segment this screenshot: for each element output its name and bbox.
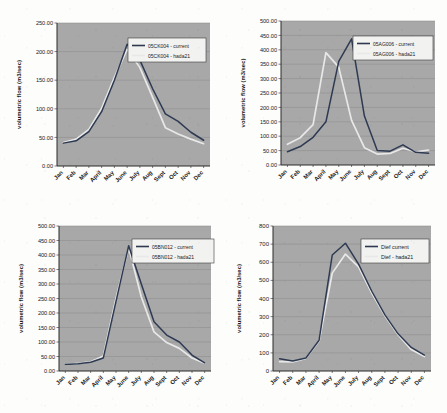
x-tick-label: June — [332, 374, 346, 388]
y-axis-title: volumetric flow (m3/sec) — [240, 59, 246, 128]
y-tick-label: 400.00 — [260, 47, 277, 53]
y-tick-label: 400.00 — [38, 252, 55, 258]
x-tick-label: July — [129, 374, 142, 387]
x-tick-label: Dec — [417, 168, 429, 180]
y-tick-label: 450.00 — [38, 238, 55, 244]
x-tick-label: Aug — [142, 374, 155, 387]
x-tick-label: Oct — [392, 168, 403, 179]
legend[interactable]: Dief currentDief - hada21 — [361, 239, 429, 263]
x-tick-label: April — [90, 374, 104, 388]
y-tick-label: 700 — [259, 241, 270, 247]
y-tick-label: 200 — [259, 332, 270, 338]
y-tick-label: 50.00 — [39, 135, 53, 141]
y-tick-label: 100 — [259, 350, 270, 356]
y-tick-label: 300.00 — [260, 76, 277, 82]
legend-label: 05AG006 - hada21 — [373, 51, 415, 57]
x-tick-label: Nov — [181, 374, 194, 387]
y-tick-label: 100.00 — [260, 133, 277, 139]
y-tick-label: 0 — [266, 368, 270, 374]
y-tick-label: 350.00 — [260, 61, 277, 67]
y-axis-tick-labels: 0.0050.00100.00150.00200.00250.00300.003… — [260, 18, 281, 168]
x-axis-tick-labels: JanFebMarAprilMayJuneJulyAugSeptOctNovDe… — [53, 166, 205, 183]
x-tick-label: Aug — [141, 169, 154, 182]
x-tick-label: Feb — [282, 374, 294, 386]
legend-label: 05BN012 - current — [152, 244, 193, 250]
y-tick-label: 800 — [259, 223, 270, 229]
y-tick-label: 500.00 — [260, 18, 277, 24]
x-tick-label: Feb — [67, 374, 79, 386]
x-tick-label: Oct — [168, 169, 179, 180]
x-tick-label: July — [353, 168, 366, 181]
x-tick-label: Sept — [154, 374, 167, 387]
y-tick-label: 500.00 — [38, 223, 55, 229]
x-tick-label: Sept — [153, 169, 166, 182]
x-tick-label: Nov — [179, 169, 192, 182]
x-tick-label: Jan — [53, 169, 65, 181]
y-tick-label: 0.00 — [42, 163, 53, 169]
chart-panel-4: 0100200300400500600700800volumetric flow… — [223, 207, 447, 413]
chart-panel-1: 0.0050.00100.00150.00200.00250.00volumet… — [0, 0, 223, 207]
x-tick-label: Sept — [378, 168, 391, 181]
x-axis-tick-labels: JanFebMarAprilMayJuneJulyAugSeptOctNovDe… — [55, 371, 206, 388]
y-tick-label: 150.00 — [36, 77, 53, 83]
legend-label: 05CK004 - hada21 — [148, 53, 190, 59]
y-axis-title: volumetric flow (m3/sec) — [18, 264, 24, 333]
y-tick-label: 300 — [259, 314, 270, 320]
x-axis-tick-labels: JanFebMarAprilMayJuneJulyAugSeptOctNovDe… — [277, 165, 430, 182]
x-tick-label: Sept — [372, 374, 385, 387]
y-axis-title: volumetric flow (m3/sec) — [16, 60, 22, 129]
x-tick-label: Jan — [55, 374, 67, 386]
y-tick-label: 200.00 — [38, 310, 55, 316]
x-tick-label: April — [306, 374, 320, 388]
y-tick-label: 50.00 — [41, 354, 55, 360]
legend[interactable]: 05CK004 - current05CK004 - hada21 — [128, 38, 206, 62]
y-tick-label: 100.00 — [36, 106, 53, 112]
y-tick-label: 0.00 — [266, 162, 277, 168]
x-tick-label: Feb — [289, 168, 301, 180]
y-tick-label: 600 — [259, 259, 270, 265]
legend-label: 05AG006 - current — [373, 41, 415, 47]
y-tick-label: 150.00 — [38, 325, 55, 331]
x-tick-label: Dec — [413, 374, 425, 386]
y-axis-tick-labels: 0.0050.00100.00150.00200.00250.00 — [36, 20, 57, 169]
x-tick-label: Feb — [65, 169, 77, 181]
legend[interactable]: 05AG006 - current05AG006 - hada21 — [353, 36, 433, 60]
x-tick-label: Oct — [169, 374, 180, 385]
y-tick-label: 150.00 — [260, 119, 277, 125]
x-tick-label: Nov — [400, 374, 413, 387]
chart-grid: 0.0050.00100.00150.00200.00250.00volumet… — [0, 0, 447, 413]
x-tick-label: Aug — [366, 168, 379, 181]
x-tick-label: April — [89, 169, 103, 183]
y-tick-label: 300.00 — [38, 281, 55, 287]
y-tick-label: 200.00 — [36, 49, 53, 55]
x-tick-label: April — [313, 168, 327, 182]
y-tick-label: 0.00 — [44, 368, 55, 374]
x-tick-label: July — [128, 169, 141, 182]
y-tick-label: 500 — [259, 277, 270, 283]
legend-label: Dief - hada21 — [381, 254, 413, 260]
x-tick-label: June — [114, 169, 128, 183]
x-tick-label: Jan — [269, 374, 281, 386]
x-tick-label: Jan — [277, 168, 289, 180]
x-tick-label: Oct — [388, 374, 399, 385]
x-axis-tick-labels: JanFebMarAprilMayJuneJulyAugSeptOctNovDe… — [269, 371, 426, 388]
y-tick-label: 50.00 — [263, 148, 277, 154]
legend-label: 05CK004 - current — [148, 43, 189, 49]
y-tick-label: 250.00 — [36, 20, 53, 26]
x-tick-label: July — [347, 374, 360, 387]
x-tick-label: Dec — [193, 374, 205, 386]
x-tick-label: June — [338, 168, 352, 182]
x-tick-label: Dec — [192, 169, 204, 181]
x-tick-label: Nov — [404, 168, 417, 181]
x-tick-label: June — [115, 374, 129, 388]
chart-panel-2: 0.0050.00100.00150.00200.00250.00300.003… — [223, 0, 447, 207]
y-tick-label: 250.00 — [260, 90, 277, 96]
y-tick-label: 100.00 — [38, 339, 55, 345]
chart-panel-3: 0.0050.00100.00150.00200.00250.00300.003… — [0, 207, 223, 413]
y-tick-label: 200.00 — [260, 105, 277, 111]
y-tick-label: 250.00 — [38, 296, 55, 302]
y-tick-label: 450.00 — [260, 33, 277, 39]
legend[interactable]: 05BN012 - current05BN012 - hada21 — [132, 239, 214, 263]
x-tick-label: Aug — [360, 374, 373, 387]
y-axis-title: volumetric flow (m3/sec) — [236, 264, 242, 333]
